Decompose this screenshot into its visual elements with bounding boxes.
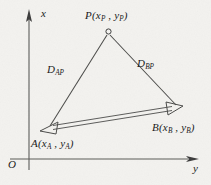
- segment-ap: [50, 35, 107, 126]
- distance-ap-label: DAP: [47, 64, 64, 77]
- point-b-label: B(xB , yB): [152, 122, 195, 135]
- point-p-marker-icon: [106, 29, 111, 34]
- axis-y-label: y: [193, 163, 198, 174]
- arrowhead-b-icon: [166, 102, 183, 115]
- arrowhead-a-icon: [40, 122, 58, 134]
- point-p-label: P(xP , yP): [85, 10, 128, 23]
- geometry-figure: x y O P(xP , yP) A(xA , yA) B(xB , yB) D…: [0, 0, 211, 185]
- figure-canvas: [0, 0, 211, 185]
- distance-bp-label: DBP: [137, 58, 154, 71]
- point-a-label: A(xA , yA): [31, 138, 74, 151]
- axis-x-label: x: [41, 8, 46, 19]
- origin-label: O: [8, 159, 16, 170]
